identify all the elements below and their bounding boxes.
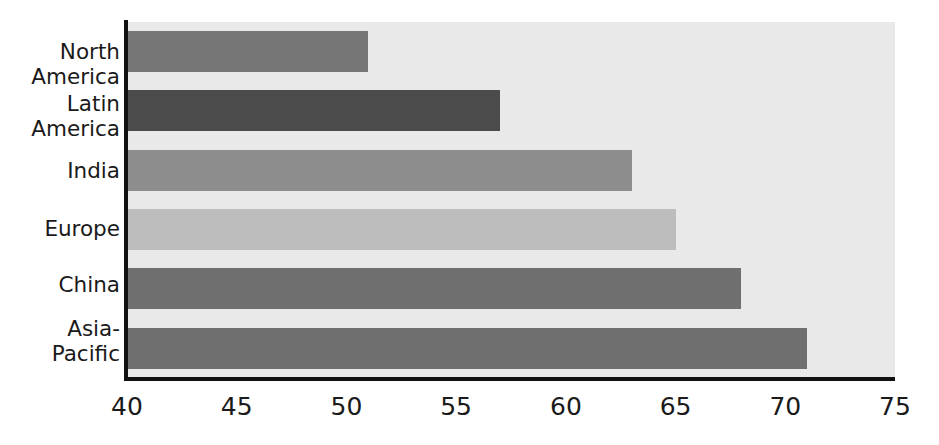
x-axis-line <box>124 377 895 381</box>
bar-row <box>127 200 895 259</box>
x-tick-label: 60 <box>526 392 606 422</box>
y-axis-label-asia-pacific: Asia- Pacific <box>0 316 120 366</box>
bar-latin-america[interactable] <box>127 90 500 131</box>
plot-area <box>127 22 895 378</box>
bar-asia-pacific[interactable] <box>127 328 807 369</box>
y-axis-label-india: India <box>0 158 120 183</box>
bar-row <box>127 81 895 140</box>
x-tick-label: 75 <box>855 392 935 422</box>
bar-chart: North America Latin America India Europe… <box>0 0 939 445</box>
y-axis-label-china: China <box>0 272 120 297</box>
x-tick-label: 45 <box>197 392 277 422</box>
y-axis-label-north-america: North America <box>0 39 120 89</box>
x-tick-label: 70 <box>745 392 825 422</box>
y-axis-label-latin-america: Latin America <box>0 91 120 141</box>
bar-europe[interactable] <box>127 209 676 250</box>
bar-row <box>127 141 895 200</box>
x-tick-label: 50 <box>306 392 386 422</box>
bar-row <box>127 259 895 318</box>
x-tick-label: 55 <box>416 392 496 422</box>
x-tick-label: 40 <box>87 392 167 422</box>
x-tick-label: 65 <box>636 392 716 422</box>
bar-india[interactable] <box>127 150 632 191</box>
bar-north-america[interactable] <box>127 31 368 72</box>
bar-row <box>127 319 895 378</box>
bar-row <box>127 22 895 81</box>
y-axis-line <box>124 20 128 381</box>
y-axis-label-europe: Europe <box>0 216 120 241</box>
bar-china[interactable] <box>127 268 741 309</box>
